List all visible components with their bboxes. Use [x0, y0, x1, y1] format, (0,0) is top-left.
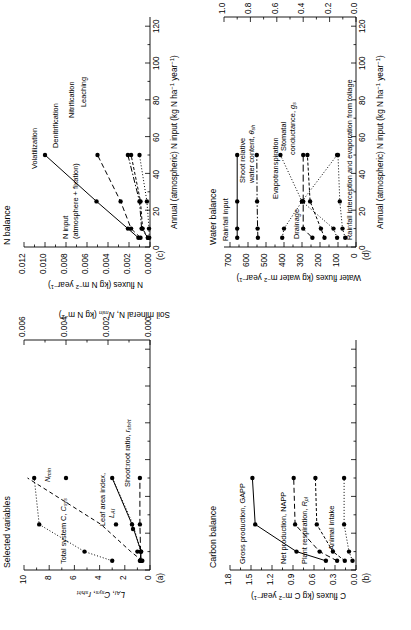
figure-rotator: (a) Selected variables 0 2 4 6 8 10 0.00… [0, 0, 411, 630]
panel-b-label-animal-intake: Animal intake [328, 506, 335, 550]
xlabel-d-sup: −1 [375, 83, 381, 90]
panel-c-ylabel-main: N fluxes (kg N m [82, 280, 143, 289]
panel-c-ylabel-mid: year [58, 280, 76, 289]
panel-a-ytick-4: 4 [95, 575, 103, 580]
panel-d-title: Water balance [209, 189, 218, 245]
panel-c-n-balance: (c) N balance 0.000 0.002 0.004 0.006 0.… [0, 0, 206, 315]
panel-a-ytick-2: 2 [120, 575, 128, 580]
panel-a-ytick-10: 10 [20, 575, 28, 584]
panel-c-label-volatilization: Volatilization [31, 128, 38, 169]
panel-d-ytick-400: 400 [279, 253, 287, 267]
panel-b-resp-text: Plant respiration, [300, 506, 309, 564]
y-left-C-sub: sys [96, 590, 105, 596]
y-left-r: r [88, 590, 91, 599]
panel-c-x-axis-label: Annual (atmospheric) N input (kg N ha−1 … [170, 55, 179, 229]
panel-b-ytick-03: 0.3 [330, 574, 338, 585]
panel-d-stomatal-g: g [288, 105, 297, 109]
panel-d-stomatal-g-sub: s [291, 102, 297, 105]
panel-c-label-nitrification: Nitrification [68, 81, 75, 118]
panel-d-water-balance: (d) Water balance 0 100 200 300 400 500 … [206, 0, 411, 315]
panel-a-ytick-0: 0 [145, 575, 153, 580]
panel-d-label-stomatal-line2: conductance, gs [289, 102, 298, 155]
panel-c-ytick-0002: 0.002 [124, 254, 132, 275]
panel-d-ylabel-sup: −2 [264, 277, 271, 283]
panel-c-label-n-input-line1: N input [62, 216, 69, 239]
panel-b-resp-sub: pl [303, 497, 309, 501]
panel-d-label-shoot-rwc-line2: water content, θsh [248, 125, 257, 183]
panel-b-ytick-06: 0.6 [309, 574, 317, 585]
panel-d-yrtick-08: 0.8 [245, 3, 253, 14]
panel-a-ytick-6: 6 [70, 575, 78, 580]
panel-c-ytick-0000: 0.000 [145, 254, 153, 275]
panel-d-y-left-axis-label: Water fluxes (kg water m−2 year−1) [236, 273, 361, 282]
panel-a-yrtick-0002: 0.002 [103, 317, 111, 338]
panel-d-label-interception: Rainfall interception and evaporation fr… [346, 79, 353, 240]
label-lai-sub: AI [110, 509, 116, 514]
panel-c-ylabel-end: ) [48, 280, 51, 289]
y-left-c2: , [91, 590, 96, 599]
panel-d-ylabel-sup2: −1 [239, 277, 246, 283]
panel-c-ylabel-sup: −2 [76, 284, 83, 290]
label-total-system-c-sub: sys [62, 498, 68, 506]
label-lai-text: Leaf area index, [98, 473, 107, 526]
panel-c-label-leaching: Leaching [80, 77, 87, 107]
panel-c-ytick-0004: 0.004 [103, 254, 111, 275]
panel-a-ytick-8: 8 [45, 575, 53, 580]
panel-a-y-left-axis-label: LAI, Csys, rsh/rt [77, 589, 125, 598]
xlabel-sup2: −1 [169, 58, 175, 65]
panel-b-label-plant-respiration: Plant respiration, Rpl [301, 497, 310, 564]
panel-a-yrtick-0006: 0.006 [19, 317, 27, 338]
panel-d-ytick-0: 0 [351, 253, 359, 258]
panel-a-label-leaf-area-index-symbol: LAI [108, 509, 117, 518]
panel-a-label-nmin: Nmin [44, 468, 53, 482]
panel-b-ytick-15: 1.5 [246, 574, 254, 585]
panel-d-xtick-0: 0 [359, 245, 367, 250]
panel-d-label-stomatal-line1: Stomatal [280, 122, 287, 151]
y-left-c1: , [110, 590, 115, 599]
panel-d-ytick-500: 500 [261, 253, 269, 267]
panel-b-ylabel-sup2: −1 [254, 595, 261, 601]
panel-b-label-gapp: Gross production, GAPP [239, 483, 246, 564]
panel-d-xtick-40: 40 [359, 170, 367, 179]
label-shoot-root-text: Shoot:root ratio, [123, 432, 132, 487]
panel-d-yrtick-06: 0.6 [272, 3, 280, 14]
panel-d-tag: (d) [363, 250, 371, 260]
panel-a-label-leaf-area-index: Leaf area index, [99, 473, 106, 526]
panel-c-y-axis-label: N fluxes (kg N m−2 year−1) [48, 280, 143, 289]
panel-b-ytick-18: 1.8 [225, 574, 233, 585]
panel-b-ytick-09: 0.9 [288, 574, 296, 585]
panel-d-ytick-600: 600 [243, 253, 251, 267]
xlabel-d-sup2: −1 [375, 58, 381, 65]
label-total-system-c-italic: C [59, 506, 68, 511]
panel-a-label-shoot-root: Shoot:root ratio, rsh/rt [124, 420, 133, 487]
panel-c-label-n-input-line2: (atmosphere + fixation) [72, 163, 79, 239]
panel-c-xtick-100: 100 [153, 56, 161, 70]
panel-b-ylabel-end: ) [251, 591, 254, 600]
panel-a-tag: (a) [157, 573, 165, 583]
panel-d-ylabel-main: Water fluxes (kg water m [271, 273, 361, 282]
panel-c-xtick-40: 40 [153, 170, 161, 179]
panel-d-xtick-60: 60 [359, 133, 367, 142]
panel-d-xtick-20: 20 [359, 207, 367, 216]
panel-c-ylabel-sup2: −1 [51, 284, 58, 290]
y-left-L-sub: AI [115, 590, 121, 596]
panel-c-xtick-120: 120 [153, 19, 161, 33]
xlabel-end: ) [170, 55, 179, 58]
panel-c-label-denitrification: Denitrification [52, 103, 59, 148]
panel-c-title: N balance [3, 205, 12, 245]
panel-d-yrtick-02: 0.2 [325, 3, 333, 14]
panel-d-ytick-100: 100 [333, 253, 341, 267]
panel-c-xtick-60: 60 [153, 133, 161, 142]
scientific-figure: (a) Selected variables 0 2 4 6 8 10 0.00… [0, 0, 411, 630]
panel-d-label-shoot-rwc-line1: Shoot relative [239, 138, 246, 183]
label-nmin-sub: min [46, 468, 52, 477]
panel-d-label-drainage: Drainage [293, 209, 300, 239]
panel-b-ytick-12: 1.2 [267, 574, 275, 585]
panel-c-tag: (c) [157, 250, 165, 260]
panel-b-resp-italic: R [300, 501, 309, 506]
panel-d-ylabel-mid: year [246, 273, 264, 282]
label-lai-italic: L [107, 514, 116, 518]
panel-b-ytick-00: 0.0 [351, 574, 359, 585]
panel-b-title: Carbon balance [209, 506, 218, 568]
panel-c-xtick-80: 80 [153, 96, 161, 105]
